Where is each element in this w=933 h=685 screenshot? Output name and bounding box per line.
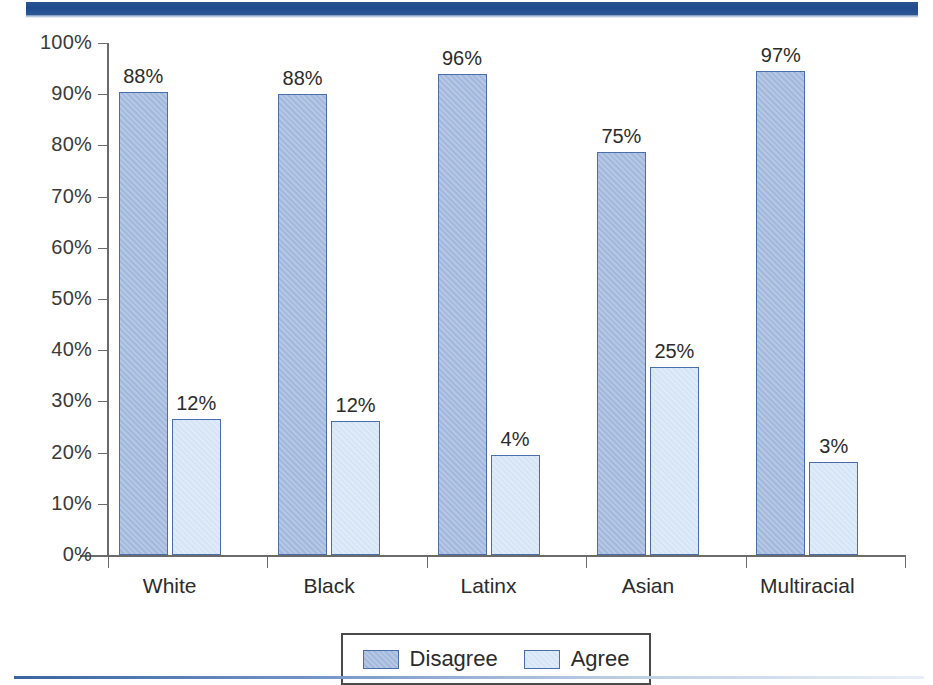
bar-value-label: 3% — [819, 435, 848, 458]
x-axis-label-asian: Asian — [622, 574, 675, 598]
y-axis-tick-label: 50% — [0, 287, 92, 310]
bar-black-disagree[interactable]: 88% — [278, 94, 327, 555]
legend-item-disagree[interactable]: Disagree — [363, 646, 498, 672]
bar-value-label: 75% — [601, 125, 641, 148]
y-axis-tick-label: 70% — [0, 185, 92, 208]
bar-value-label: 25% — [654, 340, 694, 363]
y-axis-tick — [98, 248, 108, 249]
x-axis-tick — [586, 556, 587, 568]
header-band — [26, 2, 918, 15]
plot-area: 88%12%88%12%96%4%75%25%97%3% — [108, 43, 905, 555]
bar-multiracial-disagree[interactable]: 97% — [756, 71, 805, 555]
y-axis-tick — [98, 350, 108, 351]
x-axis-tick — [905, 556, 906, 568]
legend-label: Agree — [571, 646, 630, 672]
bar-value-label: 96% — [442, 47, 482, 70]
bar-group: 88%12% — [278, 43, 380, 555]
y-axis-tick — [98, 145, 108, 146]
y-axis-tick — [98, 401, 108, 402]
bar-value-label: 12% — [336, 394, 376, 417]
bar-group: 97%3% — [756, 43, 858, 555]
y-axis-tick — [98, 197, 108, 198]
bar-asian-agree[interactable]: 25% — [650, 367, 699, 555]
agree-swatch — [524, 650, 560, 669]
bar-value-label: 88% — [283, 67, 323, 90]
y-axis-tick-label: 80% — [0, 133, 92, 156]
x-axis-label-multiracial: Multiracial — [760, 574, 855, 598]
bar-group: 88%12% — [119, 43, 221, 555]
disagree-swatch — [363, 650, 399, 669]
y-axis-tick-label: 100% — [0, 31, 92, 54]
x-axis-tick — [108, 556, 109, 568]
footer-rule — [14, 676, 924, 679]
y-axis-tick — [98, 94, 108, 95]
y-axis-tick-label: 40% — [0, 338, 92, 361]
x-axis-tick — [427, 556, 428, 568]
bar-white-agree[interactable]: 12% — [172, 419, 221, 555]
bar-black-agree[interactable]: 12% — [331, 421, 380, 555]
x-axis-line — [80, 555, 906, 557]
x-axis-label-black: Black — [303, 574, 354, 598]
bar-value-label: 4% — [501, 428, 530, 451]
bar-asian-disagree[interactable]: 75% — [597, 152, 646, 555]
y-axis-tick-label: 90% — [0, 82, 92, 105]
bar-chart: 0%10%20%30%40%50%60%70%80%90%100% 88%12%… — [0, 22, 933, 622]
bar-white-disagree[interactable]: 88% — [119, 92, 168, 555]
bar-value-label: 97% — [761, 44, 801, 67]
y-axis-tick — [98, 453, 108, 454]
bar-value-label: 12% — [176, 392, 216, 415]
legend-item-agree[interactable]: Agree — [524, 646, 630, 672]
x-axis-label-latinx: Latinx — [460, 574, 516, 598]
bar-group: 75%25% — [597, 43, 699, 555]
bar-latinx-disagree[interactable]: 96% — [438, 74, 487, 555]
x-axis-label-white: White — [143, 574, 197, 598]
y-axis-tick-label: 30% — [0, 389, 92, 412]
bar-group: 96%4% — [438, 43, 540, 555]
y-axis-tick — [98, 555, 108, 556]
y-axis-tick-label: 0% — [0, 543, 92, 566]
legend-label: Disagree — [410, 646, 498, 672]
bar-latinx-agree[interactable]: 4% — [491, 455, 540, 555]
y-axis-tick-label: 10% — [0, 492, 92, 515]
x-axis-tick — [267, 556, 268, 568]
y-axis-tick — [98, 504, 108, 505]
y-axis-tick-label: 60% — [0, 236, 92, 259]
header-band-shadow — [26, 15, 918, 18]
bar-multiracial-agree[interactable]: 3% — [809, 462, 858, 555]
y-axis-tick — [98, 299, 108, 300]
y-axis-tick — [98, 43, 108, 44]
x-axis-tick — [746, 556, 747, 568]
bar-value-label: 88% — [123, 65, 163, 88]
y-axis-tick-label: 20% — [0, 441, 92, 464]
